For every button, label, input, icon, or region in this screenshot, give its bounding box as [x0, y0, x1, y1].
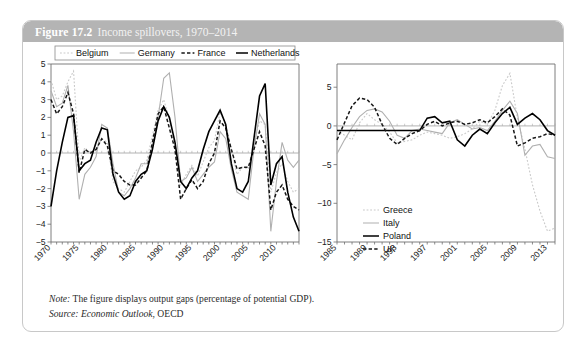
svg-text:2000: 2000: [201, 242, 222, 263]
source-rest: , OECD: [153, 308, 184, 319]
svg-text:1980: 1980: [88, 242, 109, 263]
svg-text:Netherlands: Netherlands: [251, 48, 300, 58]
svg-text:2009: 2009: [498, 242, 519, 263]
chart-right-wrapper: 50−5−10−15198519891993199720012005200920…: [305, 42, 563, 284]
svg-text:−1: −1: [36, 166, 46, 176]
note-line: Note: The figure displays output gaps (p…: [49, 291, 563, 306]
source-line: Source: Economic Outlook, OECD: [49, 306, 563, 321]
svg-text:2013: 2013: [528, 242, 549, 263]
note-text: The figure displays output gaps (percent…: [70, 293, 314, 304]
svg-text:2010: 2010: [257, 242, 278, 263]
svg-text:2: 2: [41, 112, 46, 122]
legend-right: GreeceItalyPolandUK: [363, 205, 413, 254]
svg-text:−5: −5: [322, 160, 332, 170]
svg-text:1997: 1997: [408, 242, 429, 263]
svg-text:1995: 1995: [173, 242, 194, 263]
svg-text:5: 5: [41, 59, 46, 69]
svg-text:1985: 1985: [116, 242, 137, 263]
svg-text:UK: UK: [383, 244, 396, 254]
svg-text:0: 0: [327, 121, 332, 131]
svg-text:2005: 2005: [229, 242, 250, 263]
chart-right: 50−5−10−15198519891993199720012005200920…: [305, 42, 563, 284]
figure-panel: Figure 17.2 Income spillovers, 1970–2014…: [22, 20, 564, 332]
svg-text:1: 1: [41, 130, 46, 140]
svg-text:−3: −3: [36, 201, 46, 211]
svg-text:−2: −2: [36, 184, 46, 194]
svg-text:2001: 2001: [438, 242, 459, 263]
figure-caption: Income spillovers, 1970–2014: [98, 26, 238, 38]
series-greece: [337, 73, 555, 231]
legend-item-poland: Poland: [363, 231, 411, 241]
svg-text:3: 3: [41, 95, 46, 105]
svg-text:2005: 2005: [468, 242, 489, 263]
legend-item-greece: Greece: [363, 205, 413, 215]
svg-text:1990: 1990: [145, 242, 166, 263]
svg-text:Belgium: Belgium: [76, 48, 109, 58]
source-label: Source:: [49, 308, 78, 319]
figure-notes: Note: The figure displays output gaps (p…: [23, 291, 563, 331]
chart-left-wrapper: 543210−1−2−3−4−5197019751980198519901995…: [25, 42, 303, 284]
svg-text:Italy: Italy: [383, 218, 400, 228]
svg-text:Poland: Poland: [383, 231, 411, 241]
chart-left: 543210−1−2−3−4−5197019751980198519901995…: [25, 42, 303, 284]
svg-text:4: 4: [41, 77, 46, 87]
svg-text:5: 5: [327, 82, 332, 92]
svg-text:Germany: Germany: [138, 48, 176, 58]
figure-number: Figure 17.2: [35, 26, 93, 38]
svg-text:−4: −4: [36, 219, 46, 229]
svg-text:1975: 1975: [60, 242, 81, 263]
note-label: Note:: [49, 293, 70, 304]
series-netherlands: [51, 84, 299, 232]
svg-text:Greece: Greece: [383, 205, 413, 215]
figure-header: Figure 17.2 Income spillovers, 1970–2014: [23, 21, 563, 42]
charts-area: 543210−1−2−3−4−5197019751980198519901995…: [23, 42, 563, 284]
svg-text:France: France: [197, 48, 225, 58]
svg-text:0: 0: [41, 148, 46, 158]
svg-text:1989: 1989: [348, 242, 369, 263]
svg-text:−10: −10: [317, 198, 332, 208]
legend-item-italy: Italy: [363, 218, 400, 228]
source-publication: Economic Outlook: [78, 308, 152, 319]
